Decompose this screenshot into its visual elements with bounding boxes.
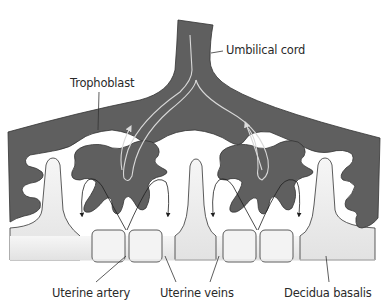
label-uterine-veins: Uterine veins — [160, 286, 234, 300]
label-umbilical-cord: Umbilical cord — [226, 43, 305, 57]
placenta-diagram — [0, 0, 385, 307]
label-uterine-artery: Uterine artery — [52, 286, 130, 300]
decidua-basalis — [10, 158, 375, 262]
label-decidua-basalis: Decidua basalis — [284, 286, 372, 300]
label-trophoblast: Trophoblast — [70, 76, 134, 90]
